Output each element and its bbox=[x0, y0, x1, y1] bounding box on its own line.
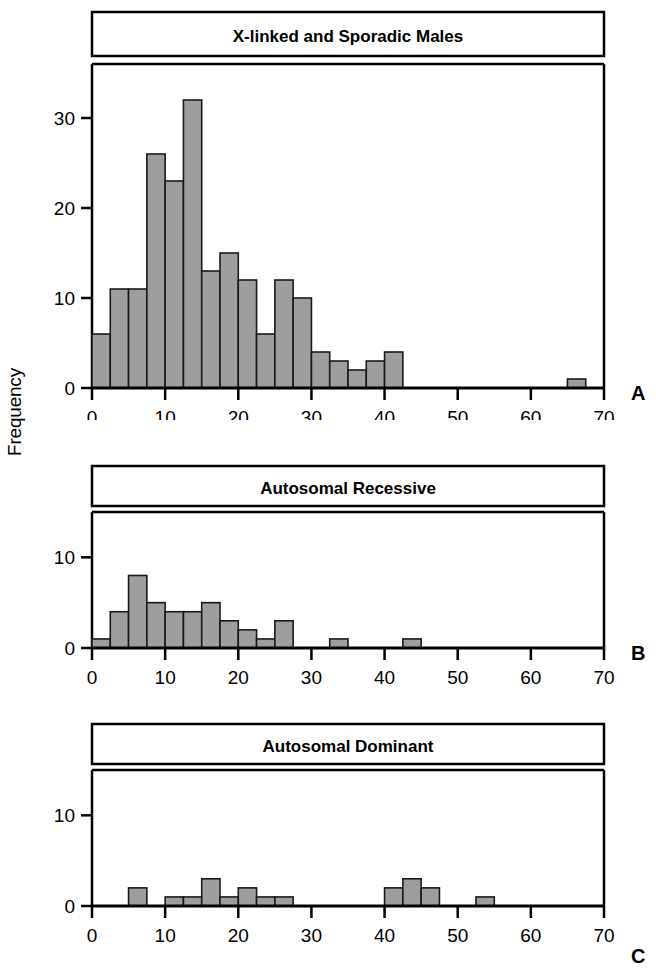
histogram-bar bbox=[92, 334, 110, 388]
histogram-bar bbox=[202, 879, 220, 906]
y-tick-label: 0 bbox=[64, 378, 75, 399]
x-tick-label: 0 bbox=[87, 667, 98, 688]
x-tick-label: 60 bbox=[520, 407, 541, 420]
x-tick-label: 0 bbox=[87, 407, 98, 420]
histogram-bar bbox=[165, 181, 183, 388]
panel-b-letter: B bbox=[631, 643, 645, 663]
histogram-bar bbox=[165, 612, 183, 648]
panel-b-bars bbox=[92, 575, 421, 648]
histogram-bar bbox=[110, 612, 128, 648]
y-tick-label: 30 bbox=[54, 108, 75, 129]
x-tick-label: 40 bbox=[374, 925, 395, 946]
histogram-bar bbox=[366, 361, 384, 388]
histogram-bar bbox=[147, 154, 165, 388]
panel-a-plot: X-linked and Sporadic Males 0102030 0102… bbox=[0, 0, 656, 420]
y-tick-label: 10 bbox=[54, 805, 75, 826]
x-tick-label: 20 bbox=[228, 925, 249, 946]
panel-a-y-ticks: 0102030 bbox=[54, 108, 92, 399]
panel-c-plot: Autosomal Dominant 010 010203040506070 bbox=[0, 718, 656, 971]
x-tick-label: 20 bbox=[228, 667, 249, 688]
x-tick-label: 50 bbox=[447, 667, 468, 688]
x-tick-label: 10 bbox=[155, 407, 176, 420]
histogram-bar bbox=[220, 621, 238, 648]
histogram-bar bbox=[129, 888, 147, 906]
panel-a: X-linked and Sporadic Males 0102030 0102… bbox=[0, 0, 656, 420]
histogram-bar bbox=[110, 289, 128, 388]
panel-c-y-ticks: 010 bbox=[54, 805, 92, 917]
panel-b: Autosomal Recessive 010 010203040506070 … bbox=[0, 460, 656, 700]
histogram-bar bbox=[147, 603, 165, 648]
panel-c: Autosomal Dominant 010 010203040506070 A… bbox=[0, 718, 656, 971]
histogram-bar bbox=[183, 100, 201, 388]
histogram-bar bbox=[293, 298, 311, 388]
histogram-bar bbox=[385, 888, 403, 906]
panel-b-plot: Autosomal Recessive 010 010203040506070 bbox=[0, 460, 656, 700]
x-tick-label: 70 bbox=[593, 407, 614, 420]
x-tick-label: 60 bbox=[520, 925, 541, 946]
histogram-bar bbox=[129, 289, 147, 388]
x-tick-label: 60 bbox=[520, 667, 541, 688]
histogram-bar bbox=[238, 630, 256, 648]
panel-b-x-ticks: 010203040506070 bbox=[87, 648, 615, 688]
x-tick-label: 40 bbox=[374, 667, 395, 688]
histogram-bar bbox=[238, 888, 256, 906]
x-tick-label: 50 bbox=[447, 407, 468, 420]
x-tick-label: 20 bbox=[228, 407, 249, 420]
panel-b-title: Autosomal Recessive bbox=[260, 479, 436, 498]
x-tick-label: 70 bbox=[593, 925, 614, 946]
panel-b-y-ticks: 010 bbox=[54, 547, 92, 659]
x-tick-label: 30 bbox=[301, 407, 322, 420]
x-tick-label: 10 bbox=[155, 925, 176, 946]
x-tick-label: 30 bbox=[301, 667, 322, 688]
histogram-bar bbox=[403, 879, 421, 906]
histogram-bar bbox=[202, 271, 220, 388]
x-tick-label: 50 bbox=[447, 925, 468, 946]
histogram-bar bbox=[348, 370, 366, 388]
x-tick-label: 40 bbox=[374, 407, 395, 420]
panel-a-bars bbox=[92, 100, 586, 388]
histogram-bar bbox=[275, 280, 293, 388]
histogram-bar bbox=[238, 280, 256, 388]
panel-a-x-ticks: 010203040506070 bbox=[87, 388, 615, 420]
panel-c-title: Autosomal Dominant bbox=[263, 737, 434, 756]
histogram-bar bbox=[275, 621, 293, 648]
y-tick-label: 20 bbox=[54, 198, 75, 219]
x-tick-label: 0 bbox=[87, 925, 98, 946]
panel-a-letter: A bbox=[631, 383, 645, 403]
histogram-bar bbox=[183, 612, 201, 648]
panel-c-bars bbox=[129, 879, 495, 906]
x-tick-label: 70 bbox=[593, 667, 614, 688]
histogram-bar bbox=[257, 334, 275, 388]
y-tick-label: 10 bbox=[54, 288, 75, 309]
x-tick-label: 10 bbox=[155, 667, 176, 688]
y-tick-label: 0 bbox=[64, 896, 75, 917]
y-tick-label: 0 bbox=[64, 638, 75, 659]
histogram-bar bbox=[421, 888, 439, 906]
histogram-bar bbox=[220, 253, 238, 388]
y-tick-label: 10 bbox=[54, 547, 75, 568]
histogram-bar bbox=[311, 352, 329, 388]
x-tick-label: 30 bbox=[301, 925, 322, 946]
histogram-bar bbox=[129, 575, 147, 648]
histogram-bar bbox=[330, 361, 348, 388]
panel-c-letter: C bbox=[631, 946, 645, 966]
histogram-bar bbox=[202, 603, 220, 648]
panel-c-x-ticks: 010203040506070 bbox=[87, 906, 615, 946]
panel-a-title: X-linked and Sporadic Males bbox=[233, 27, 464, 46]
histogram-bar bbox=[385, 352, 403, 388]
figure-three-histograms: Frequency X-linked and Sporadic Males 01… bbox=[0, 0, 656, 971]
